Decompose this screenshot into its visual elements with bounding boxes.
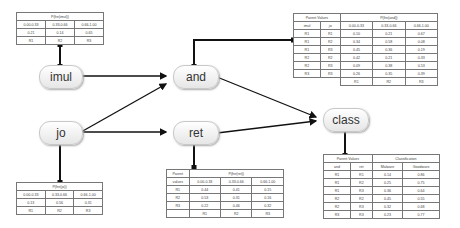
state-label: R2 (46, 37, 75, 45)
cell: 0.42 (340, 54, 372, 62)
cell: 0.41 (221, 186, 252, 194)
cell: R3 (351, 187, 373, 195)
state-label: R1 (17, 37, 46, 45)
cell: R1 (324, 171, 351, 179)
state-label: R2 (373, 78, 405, 86)
node-jo[interactable]: jo (39, 121, 83, 145)
node-imul[interactable]: imul (39, 65, 83, 89)
table-row: R1R10.100.210.67 (294, 30, 438, 38)
table-row: R3R30.230.77 (324, 211, 440, 219)
cell: 0.39 (405, 70, 437, 78)
cell: 0.67 (405, 30, 437, 38)
cell: R3 (294, 70, 321, 78)
cell: R2 (320, 54, 340, 62)
cell: R1 (324, 179, 351, 187)
class-header: Goodware (403, 163, 440, 171)
cell: R3 (320, 62, 340, 70)
cell: 0.21 (373, 54, 405, 62)
cell: 0.77 (403, 211, 440, 219)
prob-cell: 0.14 (46, 29, 75, 37)
node-class[interactable]: class (323, 108, 369, 132)
edge-ret-class (217, 121, 316, 133)
cell: 0.14 (372, 171, 403, 179)
state-label: R3 (74, 207, 103, 215)
cell: 0.64 (403, 187, 440, 195)
cell: R3 (324, 211, 351, 219)
cell: 0.08 (405, 38, 437, 46)
table-row: R2R20.420.210.33 (294, 54, 438, 62)
table-row: R30.220.460.32 (167, 202, 284, 210)
parent-header: Parent (167, 170, 190, 178)
range-header: 0.66-1.00 (75, 21, 104, 29)
cell: R2 (294, 62, 321, 70)
table-row: R2R30.320.68 (324, 203, 440, 211)
state-label: R2 (45, 207, 74, 215)
range-header: 0.66-1.00 (405, 22, 437, 30)
imul-cpt-table: P(fre(imul)) 0.00-0.33 0.33-0.66 0.66-1.… (16, 12, 104, 45)
state-label: R1 (17, 207, 46, 215)
node-ret[interactable]: ret (173, 121, 219, 145)
range-header: 0.66-1.00 (74, 191, 103, 199)
cell: 0.53 (405, 62, 437, 70)
edge-jo-and (81, 84, 166, 132)
range-header: 0.33-0.66 (46, 21, 75, 29)
state-label: R2 (221, 210, 252, 218)
cell: 0.10 (340, 30, 372, 38)
cell: 0.68 (403, 203, 440, 211)
range-header: 0.00-0.33 (17, 21, 46, 29)
cell: R2 (167, 194, 190, 202)
table-row: R1R20.340.580.08 (294, 38, 438, 46)
cell: R1 (324, 187, 351, 195)
table-title: P(fre(imul)) (17, 13, 104, 21)
cell: 0.23 (372, 211, 403, 219)
range-header: 0.33-0.66 (221, 178, 252, 186)
connector-and-table (194, 40, 293, 66)
prob-cell: 0.65 (75, 29, 104, 37)
prob-cell: 0.21 (17, 29, 46, 37)
and-cpt-table: Parent Values P(fre(and)) imul jo 0.00-0… (293, 13, 438, 86)
jo-cpt-table: P(fre(jo)) 0.00-0.33 0.33-0.66 0.66-1.00… (16, 182, 103, 215)
cell: 0.19 (405, 46, 437, 54)
range-header: 0.66-1.00 (252, 178, 284, 186)
cell: R1 (294, 30, 321, 38)
cell: 0.21 (373, 30, 405, 38)
table-row: R3R30.260.350.39 (294, 70, 438, 78)
cell: 0.45 (340, 46, 372, 54)
prob-cell: 0.56 (45, 199, 74, 207)
cell: 0.38 (373, 62, 405, 70)
cell: R1 (294, 38, 321, 46)
empty-cell (167, 210, 190, 218)
class-cpt-table: Parent Values Classification and ret Mal… (323, 154, 440, 219)
range-header: 0.00-0.33 (17, 191, 46, 199)
cell: 0.33 (405, 54, 437, 62)
node-and[interactable]: and (173, 65, 219, 89)
cell: 0.34 (340, 38, 372, 46)
cell: 0.26 (340, 70, 372, 78)
table-title: P(fre(and)) (340, 14, 437, 22)
cell: R2 (324, 203, 351, 211)
cell: 0.55 (403, 195, 440, 203)
cell: 0.16 (252, 194, 284, 202)
cell: R3 (320, 70, 340, 78)
parent-name: imul (294, 22, 321, 30)
state-label: R3 (405, 78, 437, 86)
table-row: R1R30.360.64 (324, 187, 440, 195)
cell: 0.32 (252, 202, 284, 210)
state-label: R1 (340, 78, 372, 86)
cell: R3 (320, 46, 340, 54)
parent-header: Parent Values (294, 14, 341, 22)
cell: R3 (167, 202, 190, 210)
cell: 0.31 (221, 194, 252, 202)
cell: 0.36 (372, 187, 403, 195)
range-header: 0.00-0.33 (189, 178, 220, 186)
cell: R1 (320, 30, 340, 38)
cell: 0.75 (403, 179, 440, 187)
table-row: R10.440.410.15 (167, 186, 284, 194)
cell: 0.46 (221, 202, 252, 210)
cell: 0.44 (189, 186, 220, 194)
table-row: R2R20.450.55 (324, 195, 440, 203)
prob-cell: 0.31 (74, 199, 103, 207)
state-label: R3 (75, 37, 104, 45)
cell: R2 (324, 195, 351, 203)
cell: R2 (351, 195, 373, 203)
